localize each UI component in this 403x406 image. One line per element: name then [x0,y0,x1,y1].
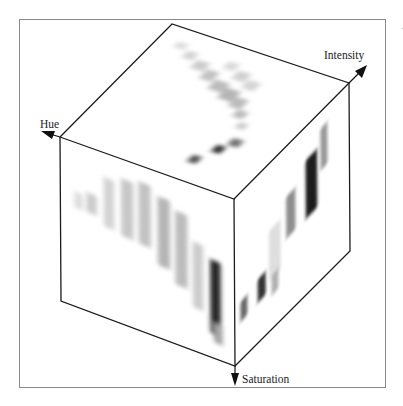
density-cell [175,211,188,289]
density-cell [214,323,223,346]
density-cell [234,122,248,131]
density-cell [138,181,151,248]
density-cell [104,177,115,230]
right-face-heatmap [240,122,328,327]
hue-arrow-icon [41,131,55,139]
histogram-cube: Hue Intensity Saturation [0,0,403,406]
density-cell [223,61,240,71]
density-cell [86,192,97,215]
intensity-label: Intensity [324,49,364,62]
density-cell [158,196,171,269]
density-cell [269,219,281,281]
intensity-arrow-icon [355,65,367,78]
density-cell [187,154,203,164]
density-cell [258,271,266,303]
density-cell [240,295,247,322]
saturation-arrow-icon [231,373,239,386]
density-cell [211,144,227,154]
density-cell [193,242,204,311]
density-cell [320,122,327,171]
saturation-label: Saturation [242,373,290,385]
density-cell [286,188,295,239]
front-face-outline [60,137,235,366]
density-cell [121,178,134,240]
density-cell [173,41,189,50]
top-face-heatmap [91,41,302,170]
density-cell [74,191,83,211]
density-cell [306,149,318,219]
density-cell [227,138,244,148]
density-cell [181,50,198,60]
hue-axis: Hue [40,118,60,139]
saturation-axis: Saturation [231,366,290,386]
density-cell [232,109,249,119]
intensity-axis: Intensity [324,49,367,83]
hue-label: Hue [40,118,59,130]
